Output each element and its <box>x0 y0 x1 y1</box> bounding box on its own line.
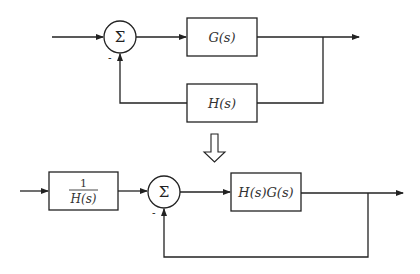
prefilter-denominator: H(s) <box>70 192 97 206</box>
hg-block-label: H(s)G(s) <box>237 185 293 200</box>
top-feedback-return <box>120 54 187 103</box>
top-summing-junction: Σ <box>104 21 136 53</box>
h-block-label: H(s) <box>207 96 236 111</box>
block-diagram-canvas: Σ - G(s) H(s) 1 H(s) Σ - <box>0 0 420 274</box>
top-feedback-takeoff <box>257 37 323 103</box>
hg-block: H(s)G(s) <box>231 173 301 211</box>
prefilter-block: 1 H(s) <box>49 172 118 210</box>
sigma-symbol: Σ <box>115 28 126 46</box>
top-h-block: H(s) <box>187 84 257 122</box>
top-g-block: G(s) <box>187 18 257 56</box>
bottom-summing-junction: Σ <box>148 176 180 208</box>
bottom-diagram: 1 H(s) Σ - H(s)G(s) <box>20 172 403 257</box>
sigma-symbol: Σ <box>159 183 170 201</box>
prefilter-numerator: 1 <box>80 177 87 190</box>
bottom-minus-sign: - <box>152 207 156 218</box>
hollow-down-arrow-icon <box>204 134 225 162</box>
top-diagram: Σ - G(s) H(s) <box>52 18 359 122</box>
top-minus-sign: - <box>108 52 112 63</box>
g-block-label: G(s) <box>208 30 235 45</box>
